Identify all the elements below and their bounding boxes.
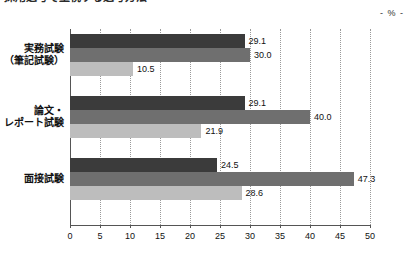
x-tick-50 (370, 225, 371, 228)
x-tick-30 (250, 225, 251, 228)
bar[interactable] (70, 110, 310, 124)
x-tick-label-45: 45 (335, 231, 345, 241)
x-tick-label-30: 30 (245, 231, 255, 241)
bar-chart: 29.130.010.529.140.021.924.547.328.6 051… (0, 24, 410, 234)
x-tick-45 (340, 225, 341, 228)
bar-group: 24.547.328.6 (70, 158, 370, 200)
x-tick-label-10: 10 (125, 231, 135, 241)
category-label-line: （筆記試験） (0, 55, 64, 67)
category-label: 論文・レポート試験 (0, 105, 64, 129)
bar[interactable] (70, 172, 354, 186)
x-tick-label-50: 50 (365, 231, 375, 241)
bar-row[interactable]: 30.0 (70, 48, 370, 62)
bar-value-label: 29.1 (245, 34, 267, 48)
chart-title-strip: 採用選考で重視する選考方法 (0, 0, 410, 5)
bar[interactable] (70, 48, 250, 62)
unit-label: - % - (380, 8, 404, 18)
x-tick-35 (280, 225, 281, 228)
category-label: 実務試験（筆記試験） (0, 43, 64, 67)
bar[interactable] (70, 158, 217, 172)
bar-value-label: 28.6 (242, 186, 264, 200)
x-tick-label-35: 35 (275, 231, 285, 241)
x-tick-20 (190, 225, 191, 228)
bar-group: 29.130.010.5 (70, 34, 370, 76)
bar-row[interactable]: 21.9 (70, 124, 370, 138)
bar[interactable] (70, 62, 133, 76)
bar-row[interactable]: 29.1 (70, 96, 370, 110)
bar-row[interactable]: 47.3 (70, 172, 370, 186)
chart-title: 採用選考で重視する選考方法 (0, 0, 410, 4)
x-tick-label-25: 25 (215, 231, 225, 241)
category-label-line: 面接試験 (0, 173, 64, 185)
category-label-line: 実務試験 (0, 43, 64, 55)
x-tick-10 (130, 225, 131, 228)
bar-group: 29.140.021.9 (70, 96, 370, 138)
bar-row[interactable]: 10.5 (70, 62, 370, 76)
x-tick-label-5: 5 (97, 231, 102, 241)
category-label-line: 論文・ (0, 105, 64, 117)
bar-row[interactable]: 28.6 (70, 186, 370, 200)
x-axis-tick-labels: 05101520253035404550 (0, 231, 410, 249)
bar-row[interactable]: 40.0 (70, 110, 370, 124)
bar-value-label: 21.9 (201, 124, 223, 138)
bar-row[interactable]: 24.5 (70, 158, 370, 172)
x-tick-0 (70, 225, 71, 228)
x-tick-40 (310, 225, 311, 228)
x-tick-15 (160, 225, 161, 228)
bar[interactable] (70, 124, 201, 138)
bar-row[interactable]: 29.1 (70, 34, 370, 48)
bar-value-label: 40.0 (310, 110, 332, 124)
x-tick-label-15: 15 (155, 231, 165, 241)
plot-area: 29.130.010.529.140.021.924.547.328.6 (70, 29, 370, 225)
x-tick-25 (220, 225, 221, 228)
x-tick-label-20: 20 (185, 231, 195, 241)
bar-value-label: 47.3 (354, 172, 376, 186)
bar-value-label: 30.0 (250, 48, 272, 62)
x-tick-label-0: 0 (67, 231, 72, 241)
category-label: 面接試験 (0, 173, 64, 185)
x-tick-label-40: 40 (305, 231, 315, 241)
bar[interactable] (70, 186, 242, 200)
bar[interactable] (70, 96, 245, 110)
bar-value-label: 29.1 (245, 96, 267, 110)
x-tick-5 (100, 225, 101, 228)
bar-value-label: 24.5 (217, 158, 239, 172)
category-label-line: レポート試験 (0, 117, 64, 129)
bar-value-label: 10.5 (133, 62, 155, 76)
bar[interactable] (70, 34, 245, 48)
gridline-50 (370, 29, 371, 225)
